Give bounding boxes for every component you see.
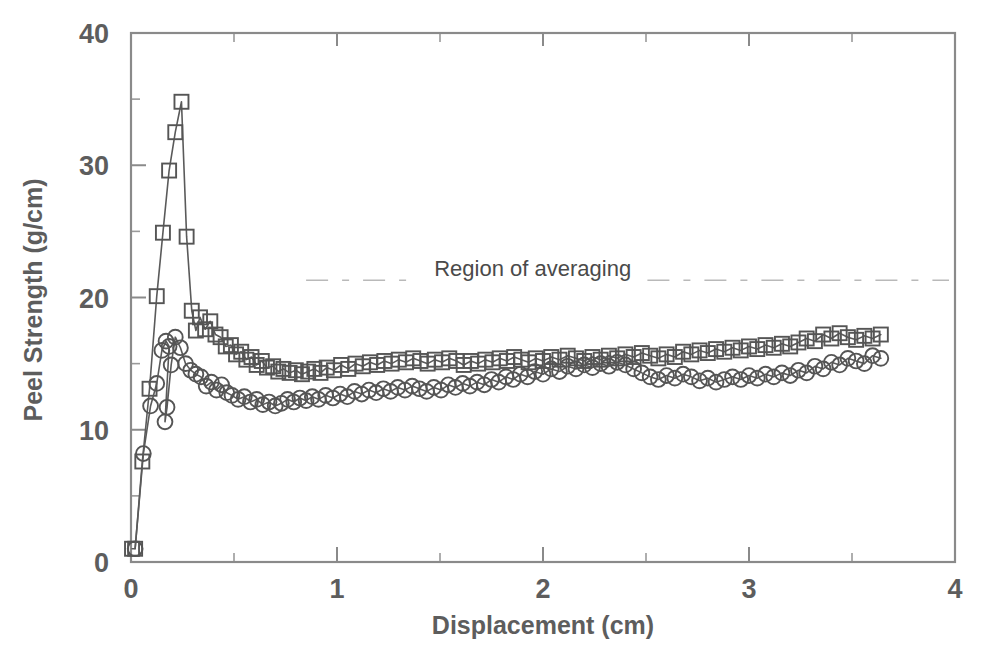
- region-of-averaging-label: Region of averaging: [434, 256, 631, 281]
- x-tick-label: 4: [947, 574, 962, 604]
- y-axis-title: Peel Strength (g/cm): [19, 178, 47, 421]
- y-tick-label: 0: [94, 548, 109, 578]
- y-tick-label: 30: [79, 151, 109, 181]
- y-tick-label: 20: [79, 284, 109, 314]
- y-tick-label: 40: [79, 19, 109, 49]
- chart-canvas: 010203040 01234 Region of averaging Peel…: [0, 0, 988, 660]
- y-tick-label: 10: [79, 416, 109, 446]
- x-axis-title: Displacement (cm): [432, 611, 654, 639]
- peel-strength-chart: 010203040 01234 Region of averaging Peel…: [0, 0, 988, 660]
- x-tick-label: 0: [123, 574, 138, 604]
- x-tick-label: 3: [741, 574, 756, 604]
- x-tick-label: 2: [535, 574, 550, 604]
- x-tick-label: 1: [329, 574, 344, 604]
